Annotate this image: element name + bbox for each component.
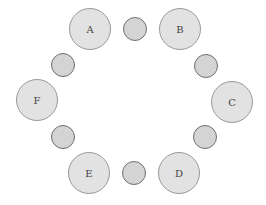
- seat-label: A: [86, 24, 93, 35]
- seat-f: F: [16, 79, 58, 121]
- empty-seat-bottom: [122, 161, 146, 185]
- seat-e: E: [68, 152, 110, 194]
- seat-label: F: [34, 95, 41, 106]
- empty-seat-top-right: [194, 54, 218, 78]
- seat-label: D: [175, 168, 183, 179]
- empty-seat-top: [123, 17, 147, 41]
- seat-b: B: [159, 8, 201, 50]
- seat-label: B: [176, 24, 183, 35]
- seat-label: C: [228, 97, 236, 108]
- seat-label: E: [85, 168, 92, 179]
- empty-seat-bottom-left: [51, 125, 75, 149]
- seat-d: D: [158, 152, 200, 194]
- seat-c: C: [211, 81, 253, 123]
- empty-seat-bottom-right: [193, 125, 217, 149]
- empty-seat-top-left: [51, 53, 75, 77]
- seat-a: A: [69, 8, 111, 50]
